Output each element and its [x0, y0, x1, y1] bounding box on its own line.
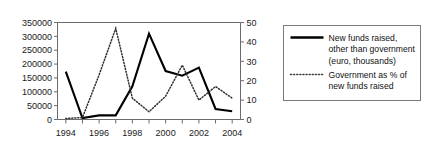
right-axis-tick-label: 0 [247, 115, 252, 125]
x-axis: 199419961998200020022004 [56, 120, 242, 138]
left-axis-tick-label: 50000 [27, 101, 52, 111]
chart-container: 0500001000001500002000002500003000003500… [0, 0, 431, 154]
legend-entry-label: (euro, thousands) [329, 56, 396, 66]
x-axis-tick-label: 2000 [156, 128, 176, 138]
left-y-axis: 0500001000001500002000002500003000003500… [22, 18, 58, 125]
left-axis-tick-label: 0 [47, 115, 52, 125]
x-axis-tick-label: 2004 [222, 128, 242, 138]
left-axis-tick-label: 300000 [22, 32, 52, 42]
left-axis-tick-label: 350000 [22, 18, 52, 28]
legend-entry-label: New funds raised, [329, 33, 398, 43]
chart-legend: New funds raised,other than government(e… [284, 26, 421, 101]
legend-entry-label: Government as % of [329, 70, 408, 80]
legend-entry-label: new funds raised [329, 81, 394, 91]
right-axis-tick-label: 40 [247, 37, 257, 47]
left-axis-tick-label: 100000 [22, 87, 52, 97]
left-axis-tick-label: 200000 [22, 59, 52, 69]
left-axis-tick-label: 150000 [22, 73, 52, 83]
right-axis-tick-label: 30 [247, 57, 257, 67]
x-axis-tick-label: 1996 [89, 128, 109, 138]
right-axis-tick-label: 10 [247, 95, 257, 105]
x-axis-tick-label: 2002 [189, 128, 209, 138]
series-line-government-pct [66, 28, 232, 118]
x-axis-tick-label: 1994 [56, 128, 76, 138]
dual-axis-line-chart: 0500001000001500002000002500003000003500… [0, 0, 431, 154]
x-axis-tick-label: 1998 [122, 128, 142, 138]
right-axis-tick-label: 50 [247, 18, 257, 28]
right-y-axis: 01020304050 [241, 18, 257, 125]
series-line-new-funds [66, 34, 232, 119]
right-axis-tick-label: 20 [247, 76, 257, 86]
series-layer [66, 28, 232, 118]
left-axis-tick-label: 250000 [22, 45, 52, 55]
legend-entry-label: other than government [329, 44, 416, 54]
